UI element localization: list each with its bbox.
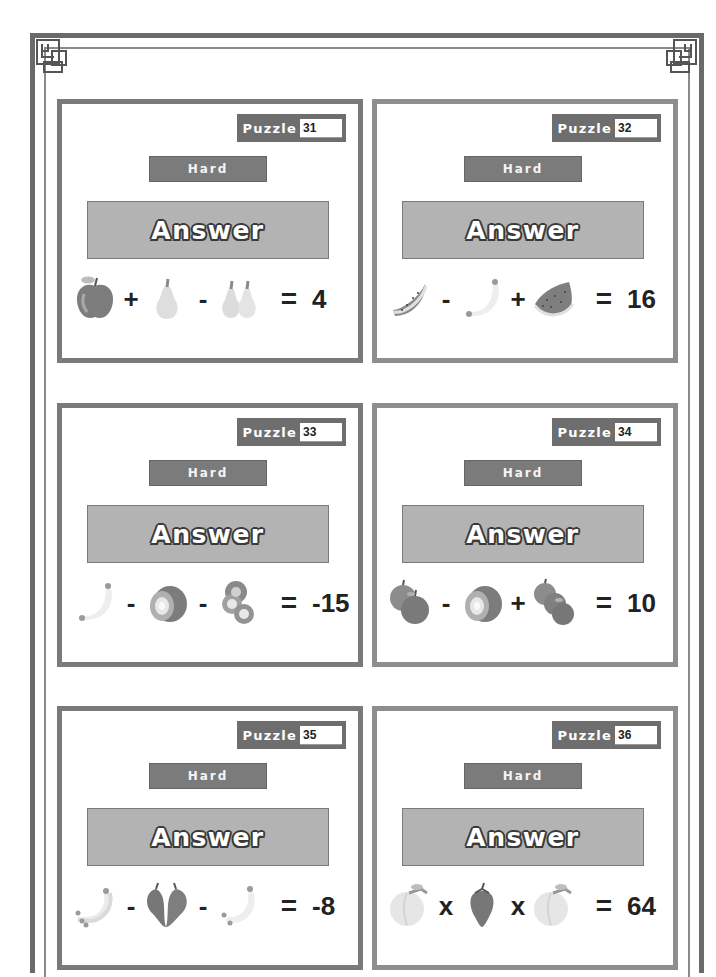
answer-box[interactable]: Answer <box>402 808 644 866</box>
equals-sign: = <box>276 890 302 922</box>
peach-icon <box>529 881 579 931</box>
answer-box[interactable]: Answer <box>402 505 644 563</box>
puzzle-tag: Puzzle 31 <box>237 114 346 142</box>
banana-bunch-icon <box>70 881 120 931</box>
answer-box[interactable]: Answer <box>402 201 644 259</box>
puzzle-card: Puzzle 31 Hard Answer +- = 4 <box>57 99 363 363</box>
answer-label: Answer <box>466 823 579 852</box>
operator: x <box>435 891 457 922</box>
puzzle-tag: Puzzle 36 <box>552 721 661 749</box>
equals-sign: = <box>276 587 302 619</box>
bananas-icon <box>214 881 264 931</box>
three-apples-icon <box>529 578 579 628</box>
strawberry-icon <box>457 881 507 931</box>
difficulty-badge: Hard <box>464 763 582 789</box>
corner-ornament-icon <box>34 37 68 75</box>
equation-result: 10 <box>627 588 656 619</box>
answer-box[interactable]: Answer <box>87 201 329 259</box>
puzzle-tag: Puzzle 33 <box>237 418 346 446</box>
puzzle-number-field[interactable]: 36 <box>615 726 657 745</box>
corner-ornament-icon <box>665 37 699 75</box>
equals-sign: = <box>591 587 617 619</box>
fruit-equation: -+ = 16 <box>385 274 670 324</box>
puzzle-label: Puzzle <box>243 121 297 136</box>
operator: + <box>507 588 529 619</box>
kiwi-slices-icon <box>214 578 264 628</box>
difficulty-badge: Hard <box>149 460 267 486</box>
puzzle-tag: Puzzle 32 <box>552 114 661 142</box>
pear-icon <box>142 274 192 324</box>
puzzle-label: Puzzle <box>558 121 612 136</box>
puzzle-number-field[interactable]: 32 <box>615 119 657 138</box>
fruit-equation: -- = -8 <box>70 881 355 931</box>
puzzle-label: Puzzle <box>243 728 297 743</box>
operator: - <box>192 588 214 619</box>
puzzle-card: Puzzle 32 Hard Answer -+ = 16 <box>372 99 678 363</box>
puzzle-tag: Puzzle 34 <box>552 418 661 446</box>
answer-box[interactable]: Answer <box>87 505 329 563</box>
equals-sign: = <box>591 890 617 922</box>
operator: - <box>192 284 214 315</box>
answer-box[interactable]: Answer <box>87 808 329 866</box>
puzzle-label: Puzzle <box>243 425 297 440</box>
fruit-equation: xx = 64 <box>385 881 670 931</box>
watermelon-slices-icon <box>529 274 579 324</box>
banana-icon <box>70 578 120 628</box>
puzzle-number-field[interactable]: 35 <box>300 726 342 745</box>
puzzle-card: Puzzle 34 Hard Answer -+ = 10 <box>372 403 678 667</box>
kiwi-icon <box>142 578 192 628</box>
puzzle-number-field[interactable]: 33 <box>300 423 342 442</box>
peach-icon <box>385 881 435 931</box>
equation-result: 64 <box>627 891 656 922</box>
puzzle-number-field[interactable]: 34 <box>615 423 657 442</box>
puzzle-number-field[interactable]: 31 <box>300 119 342 138</box>
operator: x <box>507 891 529 922</box>
watermelon-slice-icon <box>385 274 435 324</box>
apple-icon <box>70 274 120 324</box>
equation-result: -15 <box>312 588 350 619</box>
difficulty-badge: Hard <box>149 156 267 182</box>
equation-result: 16 <box>627 284 656 315</box>
equals-sign: = <box>591 283 617 315</box>
puzzle-card: Puzzle 35 Hard Answer -- = -8 <box>57 706 363 970</box>
equation-result: 4 <box>312 284 326 315</box>
answer-label: Answer <box>151 216 264 245</box>
two-pears-icon <box>214 274 264 324</box>
kiwi-icon <box>457 578 507 628</box>
operator: - <box>120 891 142 922</box>
equation-result: -8 <box>312 891 335 922</box>
answer-label: Answer <box>151 520 264 549</box>
banana-icon <box>457 274 507 324</box>
answer-label: Answer <box>151 823 264 852</box>
operator: - <box>192 891 214 922</box>
fruit-equation: -- = -15 <box>70 578 355 628</box>
puzzle-label: Puzzle <box>558 425 612 440</box>
puzzle-label: Puzzle <box>558 728 612 743</box>
operator: + <box>507 284 529 315</box>
answer-label: Answer <box>466 520 579 549</box>
puzzle-card: Puzzle 36 Hard Answer xx = 64 <box>372 706 678 970</box>
difficulty-badge: Hard <box>464 460 582 486</box>
two-apples-icon <box>385 578 435 628</box>
puzzle-tag: Puzzle 35 <box>237 721 346 749</box>
puzzle-card: Puzzle 33 Hard Answer -- = -15 <box>57 403 363 667</box>
answer-label: Answer <box>466 216 579 245</box>
operator: - <box>435 588 457 619</box>
two-strawberries-icon <box>142 881 192 931</box>
equals-sign: = <box>276 283 302 315</box>
difficulty-badge: Hard <box>464 156 582 182</box>
operator: + <box>120 284 142 315</box>
fruit-equation: -+ = 10 <box>385 578 670 628</box>
operator: - <box>435 284 457 315</box>
difficulty-badge: Hard <box>149 763 267 789</box>
operator: - <box>120 588 142 619</box>
fruit-equation: +- = 4 <box>70 274 355 324</box>
